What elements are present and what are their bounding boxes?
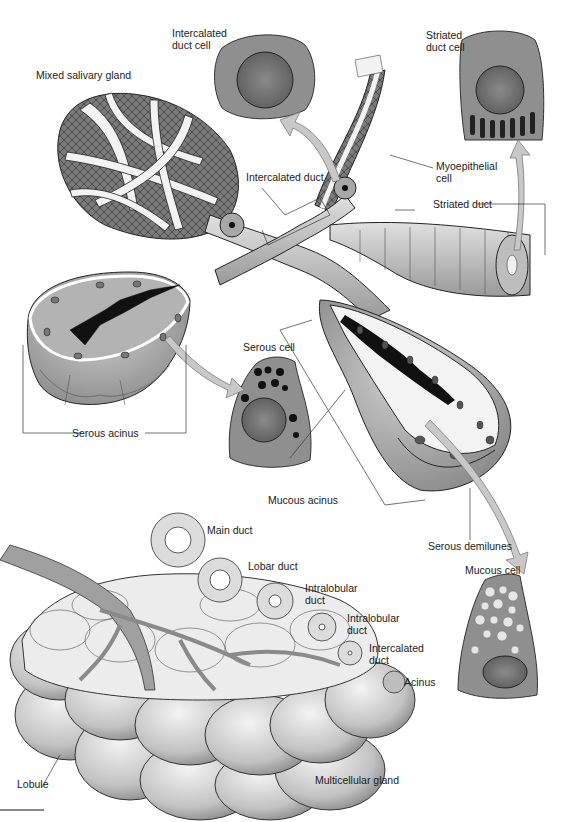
label-intercalated-duct-2: Intercalated duct [369,642,424,666]
label-intercalated-duct-cell: Intercalated duct cell [172,27,227,51]
serous-cell-illustration [229,357,311,467]
label-serous-acinus: Serous acinus [72,427,139,439]
mucous-acinus-illustration [319,300,510,491]
label-lobar-duct: Lobar duct [248,560,298,572]
label-intralobular-duct-1: Intralobular duct [305,582,358,606]
arrow-to-serous-cell [165,336,244,398]
label-striated-duct-cell: Striated duct cell [426,29,465,53]
label-mixed-salivary-gland: Mixed salivary gland [36,69,131,81]
mucous-cell-illustration [458,574,537,698]
label-lobule: Lobule [17,778,49,790]
label-serous-demilunes: Serous demilunes [428,540,512,552]
label-myoepithelial-cell: Myoepithelial cell [436,160,497,184]
label-striated-duct: Striated duct [433,198,492,210]
striated-duct-cell-illustration [460,31,544,140]
label-mucous-acinus: Mucous acinus [268,494,338,506]
serous-acinus-illustration [27,272,190,405]
label-intercalated-duct: Intercalated duct [246,171,324,183]
label-intralobular-duct-2: Intralobular duct [347,612,400,636]
label-main-duct: Main duct [207,524,253,536]
salivary-gland-diagram: Intercalated duct cell Striated duct cel… [0,0,567,822]
label-mucous-cell: Mucous cell [465,564,520,576]
diagram-artwork [0,0,567,822]
label-serous-cell: Serous cell [243,341,295,353]
label-acinus: Acinus [404,676,436,688]
intercalated-duct-cell-illustration [215,35,315,119]
label-multicellular-gland: Multicellular gland [315,774,399,786]
